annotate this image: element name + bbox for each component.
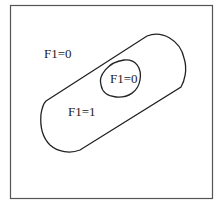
frame-border: [11, 6, 213, 199]
inner-region-label: F1=0: [110, 71, 138, 86]
region-diagram: F1=0 F1=0 F1=1: [0, 0, 214, 203]
outer-region-label: F1=0: [44, 46, 72, 61]
capsule-region-label: F1=1: [68, 104, 96, 119]
